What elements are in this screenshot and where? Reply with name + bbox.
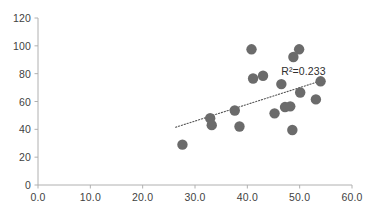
r-squared-annotation: R²=0.233 xyxy=(281,65,325,77)
y-tick-label: 0 xyxy=(25,179,31,191)
x-tick-label: 20.0 xyxy=(132,191,153,203)
y-tick-label: 60 xyxy=(19,96,31,108)
plot-area xyxy=(0,0,366,220)
y-tick-label: 40 xyxy=(19,123,31,135)
axes xyxy=(35,18,353,189)
x-tick-label: 0.0 xyxy=(30,191,45,203)
y-tick-label: 20 xyxy=(19,151,31,163)
x-tick-label: 60.0 xyxy=(341,191,362,203)
x-tick-label: 10.0 xyxy=(80,191,101,203)
trendline xyxy=(176,80,324,127)
x-tick-label: 50.0 xyxy=(289,191,310,203)
x-tick-label: 40.0 xyxy=(237,191,258,203)
scatter-chart: 0204060801001200.010.020.030.040.050.060… xyxy=(0,0,366,220)
y-tick-label: 120 xyxy=(13,12,31,24)
y-tick-label: 80 xyxy=(19,68,31,80)
data-points xyxy=(177,44,326,150)
y-tick-label: 100 xyxy=(13,40,31,52)
x-tick-label: 30.0 xyxy=(184,191,205,203)
